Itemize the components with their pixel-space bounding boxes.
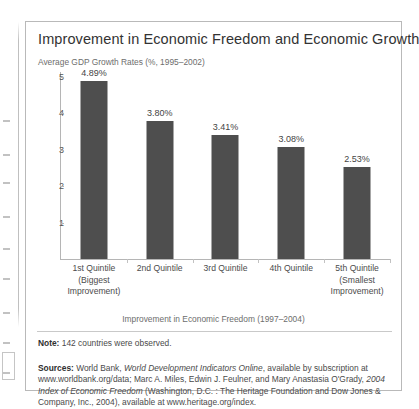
- bar-series: 4.89%3.80%3.41%3.08%2.53%: [61, 72, 390, 260]
- x-axis-category-label: 2nd Quintile: [127, 263, 193, 275]
- x-axis-category-label: 3rd Quintile: [193, 263, 259, 275]
- sources-block: Sources: World Bank, World Development I…: [38, 363, 390, 409]
- bar-value-label: 4.89%: [81, 68, 107, 78]
- bar-slot: 3.08%: [258, 71, 324, 259]
- scan-edge-mark: [3, 342, 10, 344]
- x-axis-title: Improvement in Economic Freedom (1997–20…: [26, 314, 401, 324]
- figure-panel: Improvement in Economic Freedom and Econ…: [25, 21, 402, 391]
- plot-area: 12345 4.89%3.80%3.41%3.08%2.53%: [38, 72, 390, 260]
- sources-segment: World Development Indicators Online: [124, 363, 263, 373]
- scan-edge-mark: [3, 182, 10, 184]
- x-axis-category-label: 4th Quintile: [258, 263, 324, 275]
- bar[interactable]: [146, 121, 173, 259]
- figure-title: Improvement in Economic Freedom and Econ…: [38, 31, 419, 47]
- scan-edge-mark: [3, 278, 10, 280]
- x-axis-category-line: (Biggest: [61, 275, 127, 287]
- scan-corner-artifact: [2, 352, 15, 380]
- y-axis-title: Average GDP Growth Rates (%, 1995–2002): [38, 57, 205, 67]
- scan-edge-mark: [3, 120, 10, 122]
- footer-divider: [37, 331, 392, 332]
- x-axis-category-labels: 1st Quintile(BiggestImprovement)2nd Quin…: [61, 263, 390, 309]
- scan-edge-mark: [3, 216, 10, 218]
- x-axis-category-label: 1st Quintile(BiggestImprovement): [61, 263, 127, 298]
- x-axis-category-line: 2nd Quintile: [127, 263, 193, 275]
- x-axis-category-line: Improvement): [61, 286, 127, 298]
- sources-segment: World Bank,: [76, 363, 124, 373]
- bar-value-label: 3.80%: [147, 108, 173, 118]
- sources-text: World Bank, World Development Indicators…: [38, 363, 385, 407]
- bar[interactable]: [278, 147, 305, 259]
- note-label: Note:: [38, 338, 59, 348]
- x-axis-category-line: 4th Quintile: [258, 263, 324, 275]
- bar-slot: 4.89%: [61, 71, 127, 259]
- x-axis-category-line: 1st Quintile: [61, 263, 127, 275]
- bar-slot: 3.41%: [193, 71, 259, 259]
- note-text: 142 countries were observed.: [62, 338, 172, 348]
- x-axis-category-line: Improvement): [324, 286, 390, 298]
- note-line: Note: 142 countries were observed.: [38, 338, 172, 348]
- scan-edge-mark: [3, 154, 10, 156]
- bar-slot: 3.80%: [127, 71, 193, 259]
- scan-edge-marks: [3, 120, 12, 388]
- bar-value-label: 3.08%: [279, 134, 305, 144]
- bar-value-label: 2.53%: [344, 154, 370, 164]
- bar-slot: 2.53%: [324, 71, 390, 259]
- bar[interactable]: [344, 167, 371, 259]
- sources-label: Sources:: [38, 363, 74, 373]
- x-axis-category-label: 5th Quintile(SmallestImprovement): [324, 263, 390, 298]
- x-axis-category-line: 3rd Quintile: [193, 263, 259, 275]
- x-axis-category-line: (Smallest: [324, 275, 390, 287]
- bar-value-label: 3.41%: [213, 122, 239, 132]
- scan-edge-mark: [3, 248, 10, 250]
- bar[interactable]: [80, 81, 107, 259]
- bar[interactable]: [212, 135, 239, 259]
- scan-gutter-line: [18, 22, 19, 327]
- x-axis-tick-mark: [390, 259, 391, 263]
- x-axis-category-line: 5th Quintile: [324, 263, 390, 275]
- scan-edge-mark: [3, 312, 10, 314]
